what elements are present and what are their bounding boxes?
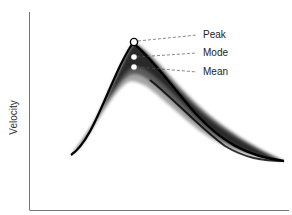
peak-label: Peak [203, 29, 226, 41]
peak-leader [138, 35, 197, 41]
mean-marker [131, 64, 137, 70]
mode-marker [131, 54, 137, 60]
velocity-chart [0, 0, 292, 215]
ensemble-band [71, 42, 284, 161]
y-axis-label: Velocity [8, 93, 19, 143]
mode-label: Mode [203, 47, 228, 59]
peak-marker [130, 38, 137, 45]
curve-left-edge [71, 42, 134, 155]
mean-label: Mean [203, 66, 228, 78]
